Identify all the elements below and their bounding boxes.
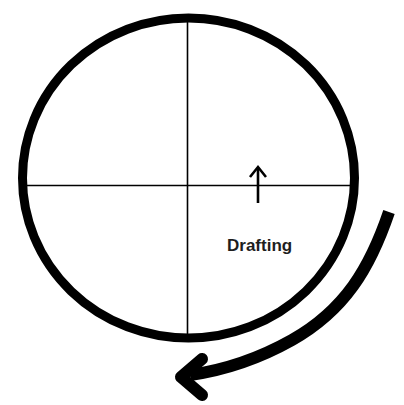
outer-circle	[23, 18, 355, 338]
drafting-label: Drafting	[227, 237, 292, 254]
diagram-canvas	[0, 0, 404, 405]
